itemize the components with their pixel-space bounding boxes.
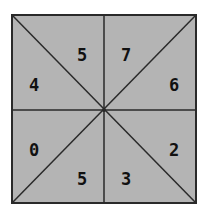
- sector-number: 0: [29, 140, 39, 160]
- sector-number: 7: [121, 45, 131, 65]
- sector-number: 4: [29, 75, 39, 95]
- sector-number: 3: [121, 169, 131, 189]
- sector-number: 2: [169, 140, 179, 160]
- sector-number: 5: [77, 45, 87, 65]
- sector-number: 6: [169, 75, 179, 95]
- center-point: [102, 108, 106, 112]
- sector-number: 5: [77, 169, 87, 189]
- number-square-diagram: 5 7 6 2 3 5 0 4: [0, 0, 207, 211]
